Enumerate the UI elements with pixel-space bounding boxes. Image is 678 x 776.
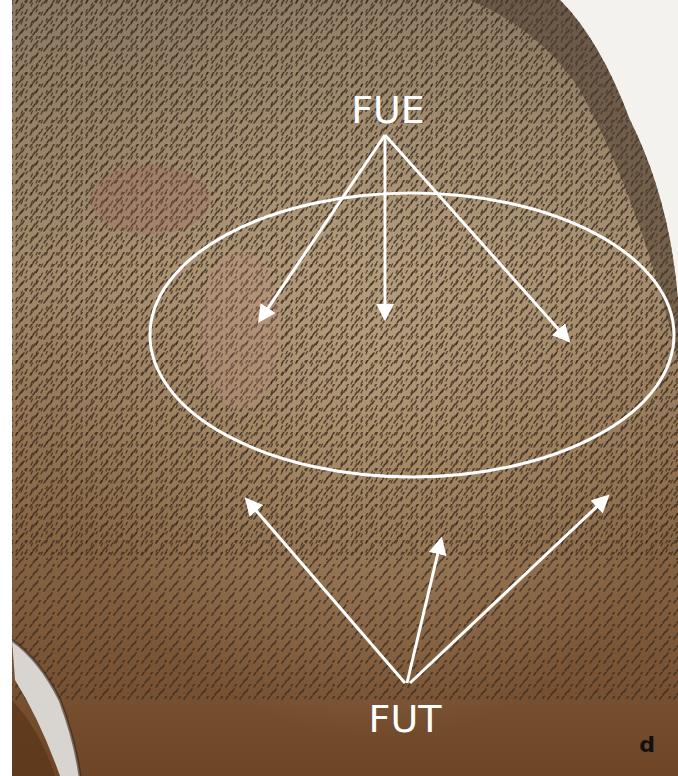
label-fue: FUE: [351, 88, 425, 132]
panel-label: d: [639, 732, 655, 757]
fut-arrow-center: [407, 540, 441, 683]
fut-arrow-left: [247, 500, 405, 683]
fut-arrow-right: [410, 497, 607, 683]
label-fut: FUT: [369, 697, 443, 741]
fue-arrow-left: [260, 135, 385, 320]
fue-arrows: [260, 135, 568, 340]
annotations-overlay: FUE FUT d: [0, 0, 678, 776]
fut-arrows: [247, 497, 607, 683]
fue-arrow-right: [385, 135, 568, 340]
fue-region-ellipse: [150, 193, 674, 477]
